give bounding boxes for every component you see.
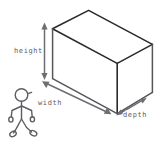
stick-figure-head-stub — [28, 92, 32, 93]
depth-label: depth — [123, 111, 147, 119]
stick-figure-left-arm — [11, 106, 22, 117]
stick-figure-left-foot — [9, 130, 17, 137]
height-arrowhead-bottom — [41, 73, 47, 80]
stick-figure-person — [9, 89, 38, 138]
height-label: height — [14, 47, 43, 55]
box-shape — [53, 10, 153, 113]
stick-figure-head — [15, 89, 28, 102]
stick-figure-right-arm — [22, 106, 33, 117]
box-dimensions-illustration: height width depth — [0, 0, 164, 143]
height-arrowhead-top — [41, 23, 47, 30]
stick-figure-right-foot — [29, 129, 38, 136]
diagram-canvas: height width depth — [0, 0, 164, 143]
width-label: width — [38, 99, 62, 107]
height-dimension: height — [14, 23, 48, 81]
